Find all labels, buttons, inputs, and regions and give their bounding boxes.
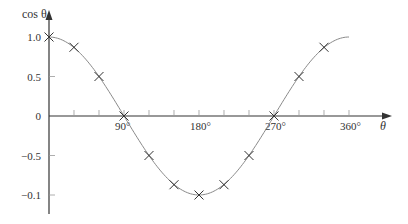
x-marker-icon xyxy=(219,180,228,189)
y-tick-label: 0.5 xyxy=(27,71,41,83)
cosine-chart: 90°180°270°360°1.00.50−0.5−0.1 cos θ θ xyxy=(0,0,408,224)
axis-labels: cos θ θ xyxy=(22,7,386,133)
x-marker-icon xyxy=(94,72,103,81)
x-marker-icon xyxy=(144,151,153,160)
y-tick-label: −0.5 xyxy=(21,150,41,162)
axes xyxy=(46,10,393,214)
x-marker-icon xyxy=(294,72,303,81)
y-tick-label: 1.0 xyxy=(27,31,41,43)
y-tick-label: −0.1 xyxy=(21,189,41,201)
y-tick-label: 0 xyxy=(36,110,42,122)
x-tick-label: 180° xyxy=(190,120,211,132)
y-axis-label: cos θ xyxy=(22,7,47,21)
x-marker-icon xyxy=(319,43,328,52)
x-marker-icon xyxy=(244,151,253,160)
x-axis-label: θ xyxy=(380,119,386,133)
x-tick-label: 360° xyxy=(340,120,361,132)
x-tick-label: 90° xyxy=(115,120,130,132)
x-marker-icon xyxy=(169,180,178,189)
x-marker-icon xyxy=(69,43,78,52)
